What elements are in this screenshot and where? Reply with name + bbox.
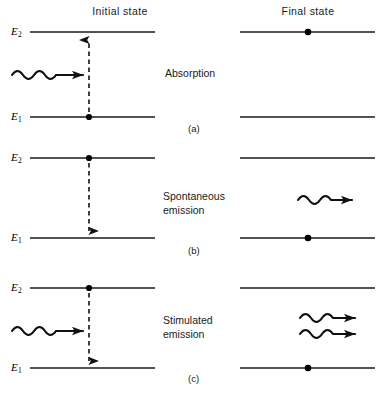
level-subscript: 2 — [18, 156, 22, 165]
level-symbol: E — [11, 361, 18, 373]
level-symbol: E — [11, 25, 18, 37]
panel-c-lower-level-label: E1 — [11, 361, 21, 373]
panel-b-initial-levels — [30, 155, 155, 238]
panel-a-upper-level-label: E2 — [11, 25, 21, 37]
panel-a-lower-level-label: E1 — [11, 110, 21, 122]
level-subscript: 1 — [18, 366, 22, 375]
panel-b-lower-level-label: E1 — [11, 231, 21, 243]
panel-c-initial-electron-dot — [86, 285, 92, 291]
level-subscript: 1 — [18, 236, 22, 245]
level-symbol: E — [11, 231, 18, 243]
panel-c-process-label: Stimulatedemission — [163, 314, 213, 341]
header-final-state: Final state — [250, 5, 366, 17]
photon-wave-icon — [300, 330, 355, 338]
panel-c-caption: (c) — [188, 373, 199, 384]
photon-wave-icon — [12, 327, 83, 335]
panel-b-process-label: Spontaneousemission — [163, 190, 225, 217]
photon-wave-icon — [300, 314, 355, 322]
panel-b-caption: (b) — [188, 245, 200, 256]
panel-c-incoming-photon — [12, 327, 83, 335]
panel-b-outgoing-photon — [298, 196, 352, 204]
panel-a-caption: (a) — [188, 123, 200, 134]
panel-a-final-electron-dot — [305, 29, 312, 36]
panel-a-initial-electron-dot — [86, 114, 92, 120]
panel-a-final-levels — [240, 29, 375, 117]
panel-b-initial-electron-dot — [86, 155, 92, 161]
panel-b-final-electron-dot — [305, 235, 312, 242]
panel-b-upper-level-label: E2 — [11, 151, 21, 163]
level-subscript: 2 — [18, 286, 22, 295]
header-initial-state: Initial state — [62, 5, 178, 17]
level-subscript: 1 — [18, 115, 22, 124]
panel-c-initial-levels — [30, 285, 155, 368]
panel-c-outgoing-photons — [300, 314, 355, 338]
panel-c-upper-level-label: E2 — [11, 281, 21, 293]
level-symbol: E — [11, 281, 18, 293]
panel-a-initial-levels — [30, 32, 155, 120]
panel-c-final-electron-dot — [305, 365, 312, 372]
level-symbol: E — [11, 151, 18, 163]
level-symbol: E — [11, 110, 18, 122]
photon-wave-icon — [298, 196, 352, 204]
photon-wave-icon — [12, 71, 83, 79]
panel-a-process-label: Absorption — [165, 67, 215, 81]
panel-a-incoming-photon — [12, 71, 83, 79]
level-subscript: 2 — [18, 30, 22, 39]
energy-level-diagram: Initial state Final state E2 E1 E2 E1 E2… — [0, 0, 385, 400]
